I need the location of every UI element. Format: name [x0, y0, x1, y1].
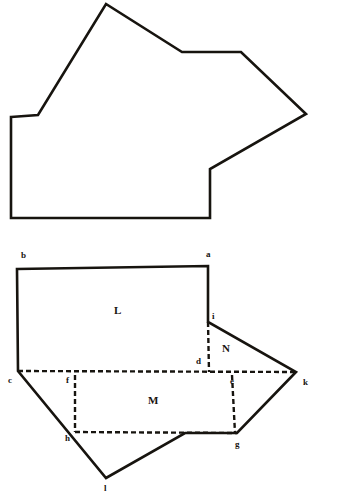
region-label-M: M	[148, 394, 159, 406]
vertex-label-h: h	[65, 433, 70, 443]
region-label-N: N	[222, 342, 230, 354]
segment-i-d-dashed	[208, 322, 209, 372]
lower-figure-group: b a i d c f e k h g l L N M	[8, 249, 308, 493]
region-label-L: L	[114, 304, 121, 316]
vertex-label-e: e	[230, 376, 234, 386]
vertex-label-b: b	[21, 250, 26, 260]
segment-c-k-dashed	[18, 371, 296, 372]
vertex-label-k: k	[303, 377, 308, 387]
upper-figure-group	[11, 4, 306, 218]
segment-h-g-dashed	[75, 432, 237, 433]
figure-svg: b a i d c f e k h g l L N M	[0, 0, 362, 495]
vertex-label-d: d	[196, 356, 201, 366]
vertex-label-a: a	[206, 249, 211, 259]
vertex-label-l: l	[104, 483, 107, 493]
vertex-label-i: i	[212, 311, 215, 321]
vertex-label-g: g	[235, 439, 240, 449]
vertex-label-c: c	[8, 375, 12, 385]
vertex-label-f: f	[66, 375, 70, 385]
figure-canvas: b a i d c f e k h g l L N M	[0, 0, 362, 495]
irregular-polygon-outline	[11, 4, 306, 218]
